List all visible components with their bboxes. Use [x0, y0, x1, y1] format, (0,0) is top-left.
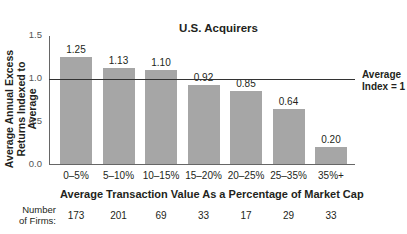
number-of-firms-value: 29: [269, 210, 309, 221]
average-label-line1: Average: [362, 69, 405, 81]
x-tick: 25–35%: [266, 170, 312, 181]
bar-value-label: 0.20: [311, 134, 351, 145]
number-of-firms-value: 17: [226, 210, 266, 221]
y-axis-label: Average Annual Excess Returns Indexed to…: [4, 49, 24, 169]
bar-value-label: 0.92: [184, 72, 224, 83]
firms-label-line2: of Firms:: [16, 215, 56, 226]
x-tick: 5–10%: [96, 170, 142, 181]
y-tick: 1.0: [22, 72, 42, 83]
x-tick: 15–20%: [181, 170, 227, 181]
bar: [60, 57, 92, 164]
bar-value-label: 1.25: [56, 44, 96, 55]
x-tick: 20–25%: [223, 170, 269, 181]
number-of-firms-value: 201: [99, 210, 139, 221]
x-axis: [49, 164, 355, 165]
bar: [145, 70, 177, 164]
bar: [188, 85, 220, 164]
firms-label-line1: Number: [16, 204, 56, 215]
number-of-firms-value: 173: [56, 210, 96, 221]
bar: [273, 109, 305, 164]
number-of-firms-value: 33: [184, 210, 224, 221]
y-tick: 0.0: [22, 158, 42, 169]
bar: [103, 68, 135, 164]
x-tick: 10–15%: [138, 170, 184, 181]
number-of-firms-value: 69: [141, 210, 181, 221]
average-label-line2: Index = 1: [362, 81, 405, 93]
chart-title: U.S. Acquirers: [0, 22, 407, 34]
y-axis: [49, 36, 50, 165]
number-of-firms-label: Number of Firms:: [16, 204, 56, 226]
bar: [315, 147, 347, 164]
x-tick: 35%+: [308, 170, 354, 181]
number-of-firms-value: 33: [311, 210, 351, 221]
average-reference-line: [49, 79, 355, 80]
average-reference-label: Average Index = 1: [362, 69, 405, 92]
bar: [230, 91, 262, 164]
y-tick: 1.5: [22, 29, 42, 40]
bar-value-label: 1.13: [99, 55, 139, 66]
x-axis-label: Average Transaction Value As a Percentag…: [60, 188, 360, 200]
x-tick: 0–5%: [53, 170, 99, 181]
bar-value-label: 0.64: [269, 96, 309, 107]
y-tick: 0.5: [22, 115, 42, 126]
bar-value-label: 1.10: [141, 57, 181, 68]
